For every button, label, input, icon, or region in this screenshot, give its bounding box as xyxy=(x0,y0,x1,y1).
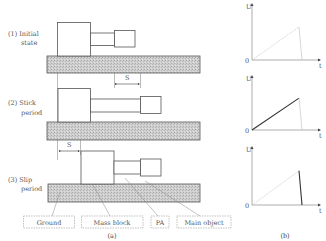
main-object xyxy=(115,31,136,48)
caption-a: (a) xyxy=(108,232,117,240)
origin-label: 0 xyxy=(245,127,249,135)
stage-label-3a: (3) Slip xyxy=(8,176,32,184)
mass-block xyxy=(58,89,91,123)
ground xyxy=(47,122,200,140)
stage-label-2b: period xyxy=(21,109,42,117)
y-axis-label: U xyxy=(246,3,252,11)
legend-main-object: Main object xyxy=(184,219,223,227)
origin-label: 0 xyxy=(245,57,249,65)
y-axis-label: U xyxy=(246,75,252,83)
displacement-label: S xyxy=(125,74,129,82)
x-axis-label: t xyxy=(319,62,322,70)
rise-line xyxy=(252,171,299,205)
fall-line xyxy=(299,27,302,60)
voltage-charts: Ut0Ut0Ut0 xyxy=(245,3,322,215)
rise-line xyxy=(252,98,299,130)
main-object xyxy=(141,97,162,114)
stage-stick: (2) Stick period S xyxy=(8,89,200,156)
stage-label-1b: state xyxy=(21,39,37,47)
legend-mass-block: Mass block xyxy=(93,219,130,227)
stage-label-3b: period xyxy=(21,185,42,193)
fall-line xyxy=(299,171,302,205)
displacement-label: S xyxy=(67,141,71,149)
origin-label: 0 xyxy=(245,202,249,210)
x-axis-label: t xyxy=(319,132,322,140)
legend-ground: Ground xyxy=(37,219,62,227)
pa-actuator xyxy=(91,33,115,46)
rise-line xyxy=(252,27,299,60)
ground xyxy=(48,184,200,202)
caption-b: (b) xyxy=(280,232,290,240)
y-axis-label: U xyxy=(246,146,252,154)
pa-actuator xyxy=(91,99,141,112)
legend-pa: PA xyxy=(156,219,165,227)
ground xyxy=(47,56,200,73)
main-object xyxy=(141,159,162,176)
x-axis-label: t xyxy=(319,207,322,215)
diagram-canvas: (1) Initial state S (2) Stick period S (… xyxy=(0,0,326,241)
stage-label-1a: (1) Initial xyxy=(8,30,39,38)
stage-slip: (3) Slip period xyxy=(8,151,200,216)
mass-block xyxy=(81,151,114,184)
legend: Ground Mass block PA Main object xyxy=(24,216,232,228)
stage-label-2a: (2) Stick xyxy=(8,99,36,107)
mass-block xyxy=(58,23,91,57)
fall-line xyxy=(299,98,302,130)
pa-actuator xyxy=(114,161,141,174)
